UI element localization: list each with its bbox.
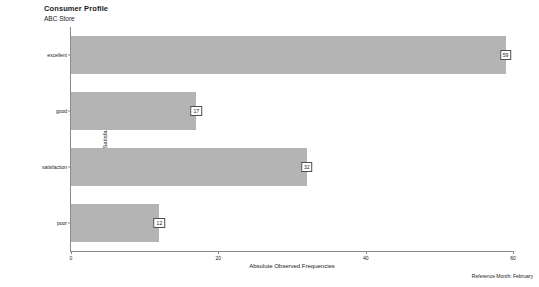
y-tick-label: good [56, 108, 67, 114]
bar[interactable] [71, 36, 506, 74]
reference-month-note: Reference Month: February [472, 273, 533, 279]
x-tick-mark [218, 251, 219, 254]
x-tick-label: 60 [510, 255, 516, 261]
y-tick-mark [68, 223, 71, 224]
y-axis-title: Customer Satisfaction Level [102, 59, 108, 219]
y-tick-mark [68, 167, 71, 168]
bar[interactable] [71, 204, 159, 242]
plot-area: Customer Satisfaction Level 59 excellent… [70, 27, 513, 252]
bar-value-label: 17 [190, 106, 202, 116]
bar-value-label: 59 [500, 50, 512, 60]
bar[interactable] [71, 148, 307, 186]
x-tick-label: 40 [363, 255, 369, 261]
chart-subtitle: ABC Store [44, 14, 108, 23]
title-block: Consumer Profile ABC Store [44, 4, 108, 23]
x-tick-mark [513, 251, 514, 254]
x-tick-label: 20 [216, 255, 222, 261]
y-tick-label: excellent [47, 52, 67, 58]
y-tick-mark [68, 55, 71, 56]
x-tick-mark [71, 251, 72, 254]
bar[interactable] [71, 92, 196, 130]
y-tick-mark [68, 111, 71, 112]
page-title: Consumer Profile [44, 4, 108, 14]
chart-container: Consumer Profile ABC Store Customer Sati… [0, 0, 539, 287]
y-tick-label: satisfaction [42, 164, 67, 170]
x-axis-title: Absolute Observed Frequencies [71, 263, 513, 269]
x-tick-mark [366, 251, 367, 254]
x-tick-label: 0 [70, 255, 73, 261]
bar-value-label: 12 [154, 218, 166, 228]
y-tick-label: poor [57, 220, 67, 226]
bar-value-label: 32 [301, 162, 313, 172]
